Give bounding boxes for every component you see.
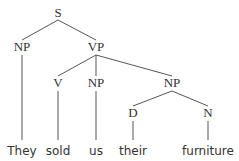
- leaf-word-w2: sold: [46, 144, 71, 158]
- tree-edge-vp-np3: [96, 55, 172, 76]
- tree-edge-np3-n: [172, 91, 208, 106]
- syntax-tree-diagram: SNPVPVNPNPDNTheysoldustheirfurniture: [0, 0, 239, 161]
- node-label-np1: NP: [14, 39, 31, 54]
- node-label-n: N: [203, 105, 213, 120]
- leaf-word-w3: us: [89, 144, 103, 158]
- node-label-np2: NP: [88, 75, 105, 90]
- leaf-word-w4: their: [119, 144, 147, 158]
- node-label-vp: VP: [88, 39, 105, 54]
- tree-edge-s-np1: [22, 20, 58, 40]
- node-label-s: S: [54, 5, 61, 20]
- tree-nodes: SNPVPVNPNPDNTheysoldustheirfurniture: [6, 5, 234, 158]
- node-label-np3: NP: [164, 75, 181, 90]
- leaf-word-w1: They: [6, 144, 36, 158]
- tree-edge-np3-d: [133, 91, 172, 106]
- leaf-word-w5: furniture: [182, 144, 234, 158]
- node-label-v: V: [53, 75, 63, 90]
- node-label-d: D: [128, 105, 137, 120]
- tree-edge-s-vp: [58, 20, 96, 40]
- tree-edge-vp-v: [58, 55, 96, 76]
